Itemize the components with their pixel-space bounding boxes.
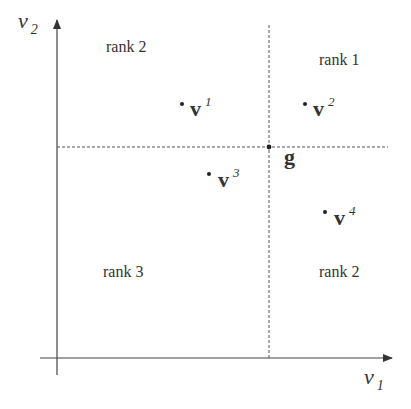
v4-label: v4 — [334, 205, 356, 231]
x-axis-label-main: v — [364, 364, 374, 389]
y-axis-label-main: v — [18, 8, 28, 33]
region-label-top-right: rank 1 — [319, 51, 359, 69]
x-axis-label: v1 — [364, 364, 384, 390]
v3-label-main: v — [218, 167, 229, 192]
x-axis-label-sub: 1 — [377, 378, 384, 393]
y-axis-label: v2 — [18, 8, 38, 34]
v1-label: v1 — [190, 96, 212, 122]
v2-label-main: v — [313, 96, 324, 121]
point-g-label: g — [284, 144, 295, 170]
v1-label-sup: 1 — [205, 94, 212, 109]
v1-label-main: v — [190, 96, 201, 121]
region-label-top-left: rank 2 — [106, 38, 146, 56]
v3-label-sup: 3 — [233, 165, 240, 180]
y-axis-label-sub: 2 — [31, 22, 38, 37]
v2-label: v2 — [313, 96, 335, 122]
v4-label-sup: 4 — [349, 203, 356, 218]
region-label-bottom-left: rank 3 — [103, 263, 143, 281]
v3-label: v3 — [218, 167, 240, 193]
region-label-bottom-right: rank 2 — [319, 263, 359, 281]
v4-label-main: v — [334, 205, 345, 230]
v2-label-sup: 2 — [328, 94, 335, 109]
